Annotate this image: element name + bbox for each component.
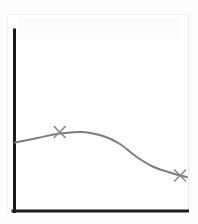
- line-chart-plot: [0, 0, 198, 224]
- data-point-marker-1: [54, 127, 65, 138]
- data-series-curve: [15, 132, 187, 177]
- chart-container: [0, 0, 198, 224]
